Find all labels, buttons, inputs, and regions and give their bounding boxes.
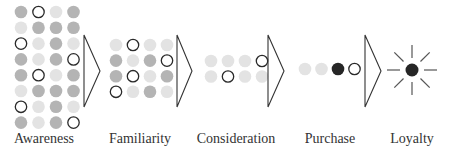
dark-circle-icon	[32, 22, 45, 35]
light-circle-icon	[15, 22, 28, 35]
outline-circle-icon	[33, 70, 44, 81]
outline-circle-icon	[256, 55, 267, 66]
sun-ray	[420, 78, 429, 87]
dark-circle-icon	[144, 86, 157, 99]
label-consideration: Consideration	[197, 131, 276, 147]
dark-circle-icon	[50, 22, 63, 35]
light-circle-icon	[205, 55, 218, 68]
light-circle-icon	[32, 37, 45, 50]
light-circle-icon	[161, 86, 174, 99]
dark-circle-icon	[67, 22, 80, 35]
outline-circle-icon	[68, 54, 79, 65]
light-circle-icon	[299, 63, 312, 76]
outline-circle-icon	[110, 86, 121, 97]
light-circle-icon	[50, 6, 63, 19]
dark-circle-icon	[15, 6, 28, 19]
dark-circle-icon	[50, 37, 63, 50]
light-circle-icon	[239, 55, 252, 68]
light-circle-icon	[315, 63, 328, 76]
chevron-right-icon	[84, 35, 100, 107]
dark-circle-icon	[50, 53, 63, 66]
light-circle-icon	[50, 69, 63, 82]
stage-circle-grids	[15, 6, 360, 129]
dark-circle-icon	[161, 70, 174, 83]
light-circle-icon	[205, 70, 218, 83]
outline-circle-icon	[68, 117, 79, 128]
light-circle-icon	[127, 86, 140, 99]
light-circle-icon	[256, 70, 269, 83]
chevron-right-icon	[268, 35, 284, 107]
chevron-right-icon	[177, 35, 192, 107]
black-circle-icon	[332, 63, 345, 76]
familiarity-circle-grid	[110, 39, 174, 98]
light-circle-icon	[144, 39, 157, 52]
dark-circle-icon	[67, 69, 80, 82]
chevron-right-icon	[365, 35, 381, 107]
outline-circle-icon	[15, 101, 26, 112]
light-circle-icon	[32, 116, 45, 129]
loyalty-sun-icon	[387, 45, 437, 95]
dark-circle-icon	[15, 53, 28, 66]
dark-circle-icon	[15, 116, 28, 129]
light-circle-icon	[15, 85, 28, 98]
sun-ray	[420, 52, 429, 61]
purchase-circle-grid	[299, 63, 360, 76]
label-awareness: Awareness	[14, 131, 74, 147]
outline-circle-icon	[127, 71, 138, 82]
light-circle-icon	[144, 70, 157, 83]
consideration-circle-grid	[205, 55, 269, 83]
dark-circle-icon	[50, 101, 63, 114]
light-circle-icon	[67, 37, 80, 50]
outline-circle-icon	[161, 55, 172, 66]
dark-circle-icon	[67, 6, 80, 19]
light-circle-icon	[222, 55, 235, 68]
light-circle-icon	[239, 70, 252, 83]
awareness-circle-grid	[15, 6, 80, 129]
label-familiarity: Familiarity	[109, 131, 171, 147]
label-loyalty: Loyalty	[390, 131, 434, 147]
light-circle-icon	[67, 101, 80, 114]
sun-core	[406, 64, 419, 77]
dark-circle-icon	[110, 70, 123, 83]
dark-circle-icon	[144, 54, 157, 67]
dark-circle-icon	[50, 116, 63, 129]
outline-circle-icon	[33, 6, 44, 17]
dark-circle-icon	[32, 85, 45, 98]
outline-circle-icon	[127, 39, 138, 50]
light-circle-icon	[127, 54, 140, 67]
outline-circle-icon	[222, 71, 233, 82]
dark-circle-icon	[67, 85, 80, 98]
outline-circle-icon	[349, 63, 360, 74]
light-circle-icon	[110, 39, 123, 52]
sun-ray	[394, 52, 403, 61]
sun-ray	[394, 78, 403, 87]
dark-circle-icon	[50, 85, 63, 98]
outline-circle-icon	[15, 38, 26, 49]
light-circle-icon	[32, 53, 45, 66]
light-circle-icon	[161, 39, 174, 52]
light-circle-icon	[32, 101, 45, 114]
dark-circle-icon	[110, 54, 123, 67]
label-purchase: Purchase	[305, 131, 356, 147]
dark-circle-icon	[15, 69, 28, 82]
